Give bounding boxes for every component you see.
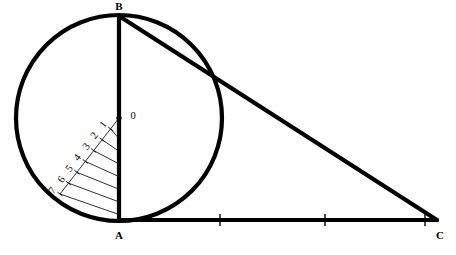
hatch-line-7 [60, 194, 119, 215]
division-label-4: 4 [71, 151, 83, 163]
division-label-5: 5 [63, 163, 75, 174]
hatch-line-4 [85, 161, 119, 176]
geometry-figure: 01234567 BAC [0, 0, 456, 255]
triangle-side-bc [119, 16, 437, 220]
division-label-6: 6 [55, 174, 67, 185]
geometry-canvas: 01234567 BAC [0, 0, 456, 255]
division-tick-1 [108, 127, 113, 131]
division-tick-4 [83, 159, 88, 163]
division-tick-5 [74, 170, 79, 174]
division-point-ticks [57, 127, 113, 196]
hatch-line-5 [77, 172, 119, 189]
circle-center-dot [116, 115, 121, 120]
division-label-0: 0 [130, 110, 135, 121]
vertex-label-c: C [436, 229, 444, 241]
division-number-labels: 01234567 [46, 110, 135, 195]
division-label-2: 2 [88, 130, 100, 141]
vertex-label-b: B [115, 0, 123, 12]
division-label-3: 3 [80, 141, 92, 152]
division-ray [60, 118, 119, 194]
division-label-1: 1 [97, 119, 109, 130]
division-tick-6 [66, 181, 71, 185]
division-tick-2 [100, 138, 105, 142]
hatch-line-3 [94, 151, 119, 164]
division-tick-3 [91, 149, 96, 153]
division-tick-7 [57, 192, 62, 196]
vertex-label-a: A [115, 229, 123, 241]
